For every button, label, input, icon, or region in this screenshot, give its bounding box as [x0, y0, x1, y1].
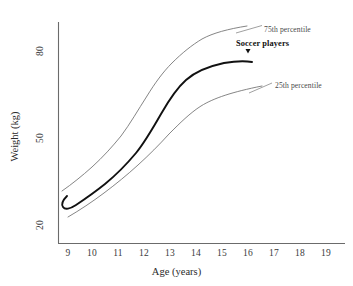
y-tick-label-20: 20 [35, 212, 45, 238]
series-label-25th-percentile: 25th percentile [275, 81, 322, 90]
weight-for-age-chart: 80 50 20 Weight (kg) 9 10 11 12 13 14 15… [0, 0, 353, 286]
series-line-75th-percentile [62, 26, 247, 191]
x-tick-label-11: 11 [109, 248, 127, 258]
leader-line-75th-percentile [236, 26, 262, 34]
x-tick-label-9: 9 [59, 248, 77, 258]
y-tick-label-80: 80 [35, 38, 45, 64]
series-line-soccer-players [62, 61, 252, 208]
x-tick-label-14: 14 [187, 248, 205, 258]
series-label-soccer-players: Soccer players [236, 39, 289, 48]
x-tick-label-15: 15 [213, 248, 231, 258]
x-tick-label-13: 13 [161, 248, 179, 258]
y-axis-title: Weight (kg) [9, 102, 20, 172]
x-tick-label-16: 16 [239, 248, 257, 258]
chart-plot-area [0, 0, 353, 286]
x-tick-label-12: 12 [135, 248, 153, 258]
soccer-players-pointer-icon [246, 49, 251, 54]
x-tick-label-19: 19 [317, 248, 335, 258]
x-axis-title: Age (years) [0, 266, 353, 277]
x-tick-label-10: 10 [83, 248, 101, 258]
y-tick-label-50: 50 [35, 125, 45, 151]
x-tick-label-18: 18 [291, 248, 309, 258]
x-tick-label-17: 17 [265, 248, 283, 258]
series-label-75th-percentile: 75th percentile [264, 25, 311, 34]
